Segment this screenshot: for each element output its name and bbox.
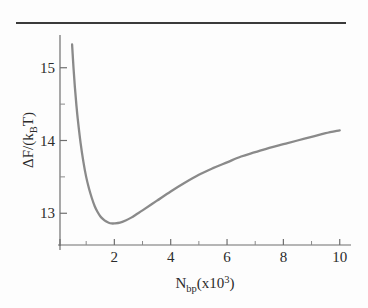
x-tick-label: 8 — [280, 249, 288, 265]
y-axis-title-tail: T) — [20, 112, 37, 126]
y-tick-label: 15 — [40, 60, 55, 76]
x-axis-title-paren-close: ) — [230, 275, 235, 292]
y-axis-title: ΔF/(kBT) — [20, 112, 39, 168]
axes-group — [58, 35, 351, 246]
x-axis-title: Nbp(x103) — [175, 274, 234, 294]
x-axis-title-n: N — [175, 275, 186, 291]
y-tick-label: 14 — [40, 133, 56, 149]
y-axis-title-delta: Δ — [20, 158, 36, 168]
y-tick-label: 13 — [40, 205, 55, 221]
x-axis-title-sub: bp — [186, 283, 197, 294]
x-tick-label: 4 — [167, 249, 175, 265]
x-tick-label: 2 — [111, 249, 119, 265]
y-axis-ticks: 131415 — [40, 60, 67, 222]
data-curve-series-0 — [72, 44, 340, 223]
figure-container: 246810 131415 Nbp(x103) ΔF/(kBT) — [0, 0, 368, 308]
x-tick-label: 10 — [332, 249, 347, 265]
chart-plot: 246810 131415 Nbp(x103) ΔF/(kBT) — [0, 0, 368, 308]
x-axis-ticks: 246810 — [60, 239, 347, 265]
y-axis-title-sub: B — [28, 126, 39, 133]
y-axis-title-main: F/(k — [20, 133, 37, 159]
x-tick-label: 6 — [223, 249, 231, 265]
x-axis-title-paren-open: (x10 — [197, 275, 225, 292]
